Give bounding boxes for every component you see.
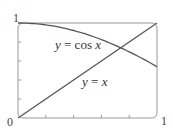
- origin-label: 0: [7, 115, 13, 129]
- cos-label: y = cos x: [53, 37, 101, 52]
- identity-label: y = x: [80, 74, 108, 89]
- x-max-label: 1: [161, 114, 167, 128]
- chart: 1 0 1 y = cos x y = x: [0, 0, 173, 134]
- y-max-label: 1: [13, 11, 19, 25]
